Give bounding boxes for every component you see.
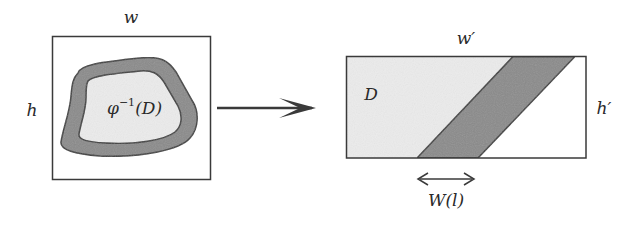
preimage-label-sup: −1 [119, 96, 135, 109]
mapping-diagram: w h φ−1(D) w′ h′ D W(l) [0, 0, 641, 228]
preimage-label: φ−1(D) [107, 96, 162, 118]
right-width-label: w′ [457, 28, 476, 48]
band-width-arrow [418, 173, 474, 185]
left-width-label: w [124, 7, 139, 27]
mapping-arrow [217, 98, 316, 118]
left-panel: w h φ−1(D) [27, 7, 211, 180]
band-width-label: W(l) [428, 190, 464, 210]
right-height-label: h′ [597, 98, 612, 118]
target-region-label: D [363, 84, 378, 104]
right-panel: w′ h′ D W(l) [347, 28, 612, 210]
preimage-label-arg: (D) [135, 98, 162, 118]
left-height-label: h [27, 100, 38, 120]
preimage-label-phi: φ [107, 98, 119, 118]
